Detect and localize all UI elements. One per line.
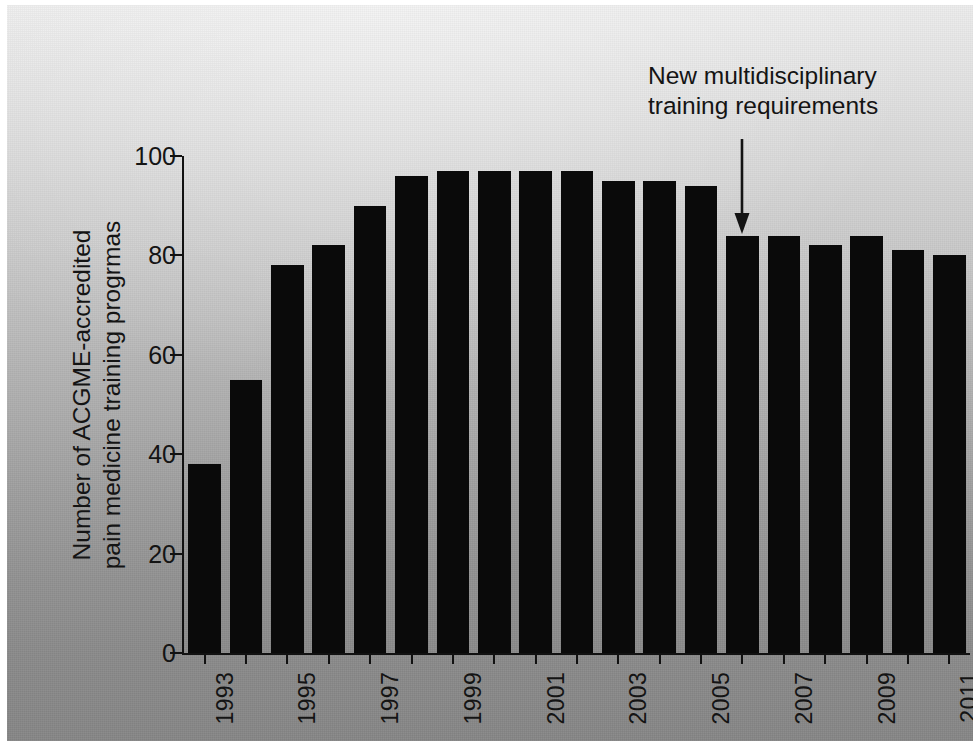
x-tick-2006: [741, 653, 743, 664]
x-tick-2000: [493, 653, 495, 664]
y-tick-mark: [170, 354, 182, 356]
y-axis-line: [182, 156, 184, 653]
x-tick-1997: [369, 653, 371, 664]
bar-1993: [188, 464, 221, 653]
x-tick-label-2009: 2009: [876, 672, 899, 724]
y-tick-mark: [170, 254, 182, 256]
bar-2001: [519, 171, 552, 653]
x-tick-label-1997: 1997: [379, 672, 402, 724]
y-axis-title-line-2: pain medicine training progrmas: [97, 145, 127, 645]
x-tick-1995: [286, 653, 288, 664]
x-tick-2010: [907, 653, 909, 664]
x-tick-2008: [824, 653, 826, 664]
annotation-line-2: training requirements: [648, 91, 878, 121]
x-tick-2004: [659, 653, 661, 664]
bar-2011: [933, 255, 966, 653]
x-tick-1999: [452, 653, 454, 664]
x-tick-label-1993: 1993: [214, 672, 237, 724]
bar-2007: [768, 236, 801, 653]
x-tick-2003: [617, 653, 619, 664]
x-tick-label-1995: 1995: [296, 672, 319, 724]
y-tick-mark: [170, 652, 182, 654]
plot-area: 020406080100 199319951997199920012003200…: [184, 156, 970, 653]
bar-1995: [271, 265, 304, 653]
x-tick-label-2001: 2001: [545, 672, 568, 724]
annotation-line-1: New multidisciplinary: [648, 61, 878, 91]
x-tick-2001: [535, 653, 537, 664]
x-tick-1994: [245, 653, 247, 664]
bar-1997: [354, 206, 387, 653]
x-tick-label-2003: 2003: [627, 672, 650, 724]
chart-canvas: Number of ACGME-accredited pain medicine…: [7, 5, 973, 741]
figure-container: Number of ACGME-accredited pain medicine…: [0, 0, 977, 745]
x-tick-1998: [411, 653, 413, 664]
x-tick-label-2011: 2011: [958, 672, 973, 723]
bar-1994: [230, 380, 263, 653]
bar-2005: [685, 186, 718, 653]
y-tick-mark: [170, 155, 182, 157]
x-tick-2005: [700, 653, 702, 664]
x-tick-1993: [204, 653, 206, 664]
x-tick-2011: [948, 653, 950, 664]
bar-2006: [726, 236, 759, 653]
x-tick-label-2007: 2007: [793, 672, 816, 724]
bar-2009: [850, 236, 883, 653]
y-tick-mark: [170, 453, 182, 455]
bar-2004: [643, 181, 676, 653]
bar-1998: [395, 176, 428, 653]
bar-1996: [312, 245, 345, 653]
down-arrow-icon: [732, 139, 752, 235]
y-axis-title-line-1: Number of ACGME-accredited: [67, 145, 97, 645]
bar-2000: [478, 171, 511, 653]
y-axis-title: Number of ACGME-accredited pain medicine…: [67, 145, 127, 645]
bar-1999: [437, 171, 470, 653]
x-tick-2009: [866, 653, 868, 664]
x-tick-2007: [783, 653, 785, 664]
x-tick-1996: [328, 653, 330, 664]
y-tick-mark: [170, 553, 182, 555]
x-tick-label-1999: 1999: [462, 672, 485, 724]
x-tick-label-2005: 2005: [710, 672, 733, 724]
bar-2003: [602, 181, 635, 653]
bar-2002: [561, 171, 594, 653]
bar-2008: [809, 245, 842, 653]
annotation-new-requirements: New multidisciplinary training requireme…: [648, 61, 878, 121]
x-tick-2002: [576, 653, 578, 664]
bar-2010: [892, 250, 925, 653]
